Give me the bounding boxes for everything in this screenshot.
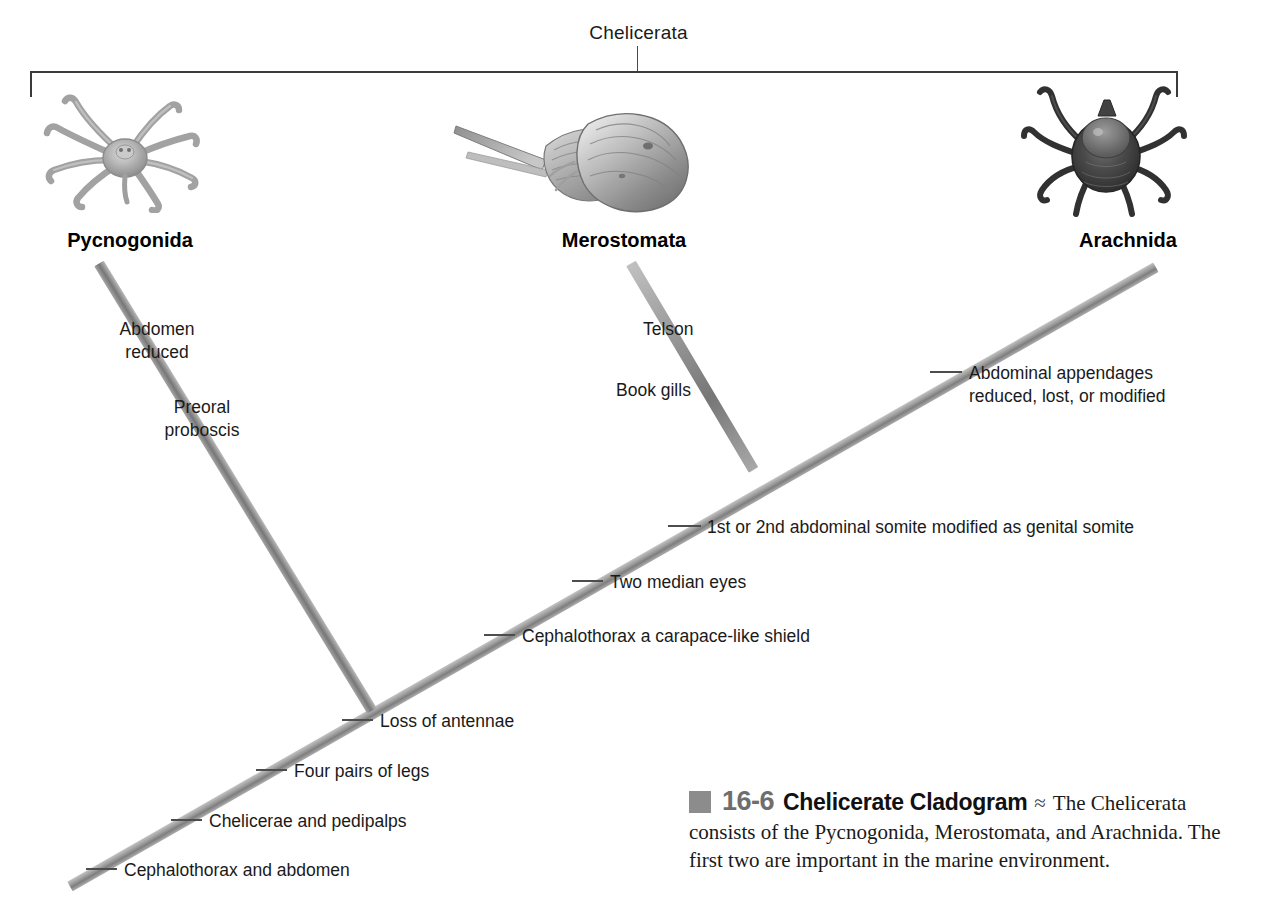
taxon-label-pycnogonida: Pycnogonida	[67, 229, 193, 252]
clade-bracket-label: Chelicerata	[0, 22, 1277, 44]
tick-illustration	[1020, 70, 1200, 220]
caption-swatch-icon	[689, 791, 711, 813]
caption-figure-number: 16-6	[722, 786, 774, 817]
character-line-2: reduced, lost, or modified	[969, 385, 1166, 408]
chelicerate-cladogram-figure: Chelicerata	[0, 0, 1277, 915]
character-tick-loss-of-antennae	[342, 719, 373, 721]
clade-bracket-bar	[30, 71, 1178, 73]
character-label-genital-somite: 1st or 2nd abdominal somite modified as …	[707, 516, 1134, 539]
character-tick-abdominal-appendages	[930, 371, 962, 373]
sea-spider-illustration	[32, 88, 222, 213]
character-tick-four-pairs-of-legs	[256, 769, 287, 771]
character-label-book-gills: Book gills	[616, 379, 691, 402]
clade-bracket-stem	[637, 46, 638, 72]
caption-separator-icon: ≈	[1034, 791, 1046, 816]
caption-heading-line: 16-6 Chelicerate Cladogram ≈ The Chelice…	[689, 786, 1249, 817]
character-label-four-pairs-of-legs: Four pairs of legs	[294, 760, 429, 783]
character-label-two-median-eyes: Two median eyes	[610, 571, 746, 594]
character-label-abdomen-reduced: Abdomen reduced	[120, 318, 195, 365]
horseshoe-crab-illustration	[450, 88, 710, 218]
branch-merostomata	[626, 261, 758, 473]
character-label-telson: Telson	[643, 318, 694, 341]
figure-caption: 16-6 Chelicerate Cladogram ≈ The Chelice…	[689, 786, 1249, 874]
character-line-2: proboscis	[165, 419, 240, 442]
caption-body-first: The Chelicerata	[1053, 789, 1187, 817]
character-line-1: Preoral	[165, 396, 240, 419]
character-label-cephalothorax-abdomen: Cephalothorax and abdomen	[124, 859, 350, 882]
character-tick-genital-somite	[668, 525, 701, 527]
taxon-label-arachnida: Arachnida	[1079, 229, 1177, 252]
caption-body-rest: consists of the Pycnogonida, Merostomata…	[689, 818, 1249, 874]
character-label-abdominal-appendages: Abdominal appendages reduced, lost, or m…	[969, 362, 1166, 409]
character-label-carapace-shield: Cephalothorax a carapace-like shield	[522, 625, 810, 648]
character-tick-cephalothorax-abdomen	[86, 868, 117, 870]
character-label-loss-of-antennae: Loss of antennae	[380, 710, 514, 733]
character-line-1: Abdomen	[120, 318, 195, 341]
character-line-1: Abdominal appendages	[969, 362, 1166, 385]
character-label-preoral-proboscis: Preoral proboscis	[165, 396, 240, 443]
character-tick-chelicerae-pedipalps	[171, 819, 202, 821]
character-tick-two-median-eyes	[572, 580, 603, 582]
character-tick-carapace-shield	[484, 634, 515, 636]
character-line-2: reduced	[120, 341, 195, 364]
caption-title: Chelicerate Cladogram	[783, 789, 1027, 816]
character-label-chelicerae-pedipalps: Chelicerae and pedipalps	[209, 810, 407, 833]
taxon-label-merostomata: Merostomata	[562, 229, 686, 252]
